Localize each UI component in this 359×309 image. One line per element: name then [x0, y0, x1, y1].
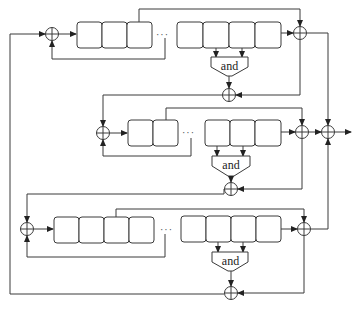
ellipsis: ···: [156, 29, 169, 40]
ellipsis: ···: [160, 224, 173, 235]
ellipsis: ···: [182, 127, 195, 138]
middle-register-row: ··· and: [97, 95, 352, 196]
bottom-right-cells: [181, 216, 281, 242]
middle-right-cells: [205, 120, 281, 146]
and-gate-bottom: and: [212, 252, 248, 271]
xor-middle-right-icon: [296, 126, 309, 139]
xor-top-left-icon: [46, 28, 59, 41]
bottom-register-row: ··· and: [10, 139, 328, 300]
bottom-left-cells: [54, 217, 154, 243]
shift-register-diagram: ··· and: [0, 0, 359, 309]
svg-text:and: and: [221, 59, 238, 73]
middle-left-cells: [128, 120, 178, 146]
top-left-cells: [77, 22, 152, 48]
xor-bottom-bottom-icon: [225, 287, 238, 300]
top-register-row: ··· and: [10, 9, 328, 294]
xor-bottom-right-icon: [298, 223, 311, 236]
and-gate-middle: and: [212, 156, 250, 176]
xor-middle-bottom-icon: [225, 183, 238, 196]
xor-top-bottom-icon: [223, 89, 236, 102]
svg-text:and: and: [222, 158, 239, 172]
diagram-canvas: ··· and: [0, 0, 359, 309]
xor-top-right-icon: [294, 27, 307, 40]
top-right-cells: [177, 22, 281, 48]
svg-text:and: and: [222, 254, 239, 268]
xor-bottom-left-icon: [21, 223, 34, 236]
xor-final-output-icon: [322, 126, 335, 139]
and-gate-top: and: [211, 57, 248, 76]
xor-middle-left-icon: [97, 127, 110, 140]
